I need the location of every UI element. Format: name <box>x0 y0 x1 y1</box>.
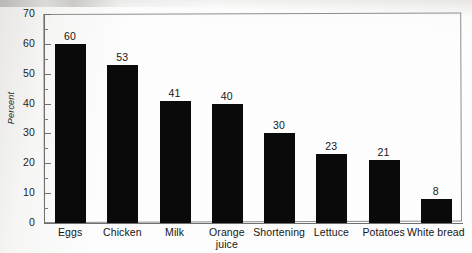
bar-value-label: 41 <box>149 87 201 99</box>
x-axis-category-label-line1: Chicken <box>103 226 142 238</box>
bar <box>107 65 138 223</box>
bar-value-label: 53 <box>96 51 148 63</box>
x-axis-line <box>44 223 463 224</box>
bar <box>316 154 347 223</box>
y-axis-tick-label: 50 <box>9 67 35 79</box>
bar-slot: 8 <box>410 14 462 223</box>
bar-value-label: 40 <box>201 90 253 102</box>
bar-value-label: 30 <box>253 119 305 131</box>
bar <box>264 133 295 223</box>
x-axis-category-label-line1: Potatoes <box>363 226 405 238</box>
bar-value-label: 8 <box>410 185 462 197</box>
bar-slot: 23 <box>305 14 357 223</box>
bar-slot: 53 <box>96 14 148 223</box>
x-axis-category-label-line1: White bread <box>407 226 465 238</box>
x-axis-category-label-line1: Eggs <box>58 226 82 238</box>
y-axis-tick-label: 10 <box>9 186 35 198</box>
bar-chart-screenshot: Percent 010203040506070 605341403023218 … <box>0 0 472 253</box>
y-axis-tick-label: 60 <box>9 37 35 49</box>
x-axis-category-label-line1: Orange <box>209 226 245 238</box>
bar-slot: 40 <box>201 14 253 223</box>
x-axis-category-label-line2: juice <box>195 239 259 251</box>
bar <box>369 160 400 223</box>
bar-slot: 21 <box>358 14 410 223</box>
bar-slot: 30 <box>253 14 305 223</box>
y-axis-tick-label: 70 <box>9 7 35 19</box>
bar <box>212 104 243 223</box>
bar <box>160 101 191 223</box>
x-axis-category-label-line1: Milk <box>165 226 184 238</box>
bar <box>421 199 452 223</box>
y-axis-tick-label: 0 <box>9 216 35 228</box>
bar-value-label: 60 <box>44 30 96 42</box>
bar-value-label: 23 <box>305 140 357 152</box>
bar-slot: 41 <box>149 14 201 223</box>
bar-value-label: 21 <box>358 146 410 158</box>
scan-artifact-top-edge <box>0 0 230 7</box>
x-axis-category-label-line1: Lettuce <box>314 226 349 238</box>
x-axis-category-label: White bread <box>404 227 468 239</box>
bar <box>55 44 86 223</box>
y-axis-tick-label: 30 <box>9 126 35 138</box>
y-axis-tick-major <box>44 223 51 224</box>
y-axis-tick-label: 20 <box>9 156 35 168</box>
bar-slot: 60 <box>44 14 96 223</box>
bars-group: 605341403023218 <box>44 14 462 223</box>
y-axis-tick-label: 40 <box>9 97 35 109</box>
x-axis-labels: EggsChickenMilkOrangejuiceShorteningLett… <box>44 227 462 253</box>
x-axis-category-label-line1: Shortening <box>253 226 305 238</box>
